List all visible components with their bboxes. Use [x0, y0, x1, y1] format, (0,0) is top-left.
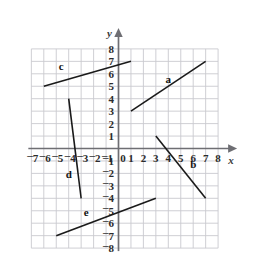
x-axis-arrowhead [228, 144, 237, 152]
segment-label-d: d [66, 168, 72, 180]
coordinate-plane-figure: –7–6–5–4–3–2–11234567887654321–1–2–3–4–5… [0, 0, 267, 279]
segment-label-b: b [190, 158, 196, 170]
segment-label-e: e [84, 206, 89, 218]
axis-tick-label: –7 [26, 149, 39, 165]
axis-tick-label: 5 [109, 80, 115, 92]
axis-tick-label: 8 [215, 152, 221, 164]
axis-tick-label: –2 [89, 149, 102, 165]
axis-tick-label: 5 [178, 152, 184, 164]
axis-tick-label: 4 [109, 93, 115, 105]
axis-tick-label: –3 [76, 149, 89, 165]
axis-tick-label: 2 [141, 152, 147, 164]
line-segment-labels: abcde [59, 60, 196, 218]
segment-label-a: a [166, 73, 172, 85]
axis-tick-label: 1 [109, 130, 115, 142]
axis-tick-label: –4 [64, 149, 77, 165]
y-axis-label: y [105, 27, 112, 39]
y-axis-arrowhead [114, 28, 122, 37]
coordinate-plane-svg: –7–6–5–4–3–2–11234567887654321–1–2–3–4–5… [0, 0, 267, 279]
axis-name-labels: xy [105, 27, 234, 166]
axis-tick-label: 3 [109, 105, 115, 117]
axis-tick-label: 8 [109, 43, 115, 55]
axis-tick-label: 7 [203, 152, 209, 164]
axis-tick-label: 0 [120, 152, 126, 164]
axis-tick-label: –5 [51, 149, 64, 165]
axis-tick-label: 3 [153, 152, 159, 164]
axis-tick-label: –6 [39, 149, 52, 165]
axis-tick-label: 2 [109, 118, 115, 130]
axis-tick-label: 6 [109, 68, 115, 80]
x-axis-label: x [227, 154, 234, 166]
segment-label-c: c [59, 60, 64, 72]
axis-tick-label: 1 [128, 152, 134, 164]
